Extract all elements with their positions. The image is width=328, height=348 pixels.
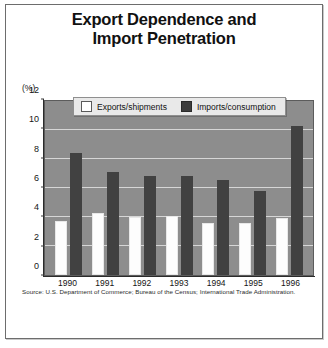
bar-group xyxy=(234,101,271,275)
bar-exports-1995 xyxy=(239,223,251,275)
y-axis-tick-label: 0 xyxy=(34,261,39,271)
y-axis-tick-mark xyxy=(41,157,44,158)
legend-item-imports: Imports/consumption xyxy=(181,101,276,112)
y-axis-tick-mark xyxy=(41,216,44,217)
x-axis-label-1991: 1991 xyxy=(86,278,123,288)
bar-group xyxy=(50,101,87,275)
y-axis-tick-label: 8 xyxy=(34,144,39,154)
bar-groups xyxy=(45,101,313,275)
legend-label-exports: Exports/shipments xyxy=(97,102,167,112)
legend-label-imports: Imports/consumption xyxy=(197,102,276,112)
y-axis-line xyxy=(43,99,44,277)
x-axis-label-1990: 1990 xyxy=(49,278,86,288)
y-axis-tick-label: 12 xyxy=(29,85,39,95)
y-axis-tick-label: 10 xyxy=(29,114,39,124)
bar-group xyxy=(271,101,308,275)
bar-exports-1993 xyxy=(166,216,178,275)
bar-imports-1990 xyxy=(70,153,82,275)
x-axis-line xyxy=(43,276,315,277)
x-axis-label-1995: 1995 xyxy=(235,278,272,288)
plot-background xyxy=(44,100,314,276)
bar-imports-1991 xyxy=(107,172,119,275)
x-axis-labels: 1990199119921993199419951996 xyxy=(44,278,314,288)
bar-group xyxy=(124,101,161,275)
bar-exports-1990 xyxy=(55,221,67,275)
y-axis-tick-mark xyxy=(41,128,44,129)
y-axis-tick-label: 4 xyxy=(34,202,39,212)
y-axis-tick-mark xyxy=(41,99,44,100)
bar-exports-1991 xyxy=(92,213,104,275)
x-axis-label-1993: 1993 xyxy=(160,278,197,288)
y-axis-tick-label: 2 xyxy=(34,232,39,242)
bar-imports-1992 xyxy=(144,176,156,275)
bar-imports-1995 xyxy=(254,191,266,275)
y-axis-tick-mark xyxy=(41,245,44,246)
chart-legend: Exports/shipments Imports/consumption xyxy=(73,97,286,116)
bar-imports-1994 xyxy=(217,180,229,275)
bar-group xyxy=(87,101,124,275)
y-axis-tick-mark xyxy=(41,275,44,276)
source-note: Source: U.S. Department of Commerce; Bur… xyxy=(22,288,316,295)
y-axis-tick-label: 6 xyxy=(34,173,39,183)
x-axis-label-1992: 1992 xyxy=(123,278,160,288)
chart-title-line-2: Import Penetration xyxy=(10,29,318,48)
y-axis-tick-mark xyxy=(41,187,44,188)
x-axis-label-1994: 1994 xyxy=(198,278,235,288)
bar-group xyxy=(197,101,234,275)
chart-title-line-1: Export Dependence and xyxy=(10,10,318,29)
bar-exports-1996 xyxy=(276,218,288,275)
x-axis-label-1996: 1996 xyxy=(272,278,309,288)
bar-exports-1994 xyxy=(202,223,214,275)
bar-imports-1996 xyxy=(291,126,303,275)
chart-figure: Export Dependence and Import Penetration… xyxy=(0,0,328,348)
bar-group xyxy=(161,101,198,275)
legend-item-exports: Exports/shipments xyxy=(81,101,167,112)
plot-area: 024681012 xyxy=(44,100,314,276)
legend-swatch-exports-icon xyxy=(81,101,92,112)
chart-title: Export Dependence and Import Penetration xyxy=(10,10,318,48)
bar-imports-1993 xyxy=(181,176,193,275)
legend-swatch-imports-icon xyxy=(181,101,192,112)
bar-exports-1992 xyxy=(129,217,141,275)
